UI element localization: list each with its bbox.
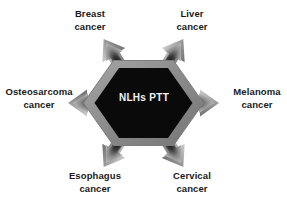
breast-label-line2: cancer <box>62 21 118 34</box>
core-label-line1: NLHs <box>119 92 146 103</box>
liver-label-line2: cancer <box>166 21 218 34</box>
esophagus-label-line2: cancer <box>64 183 126 196</box>
breast-label-line1: Breast <box>75 8 105 19</box>
core-label-line2: PTT <box>149 92 169 103</box>
cervical-label-line1: Cervical <box>173 170 211 181</box>
diagram-canvas: NLHs PTT Breast cancer Liver cancer Oste… <box>0 0 287 206</box>
node-cervical-cancer-label: Cervical cancer <box>163 170 221 195</box>
osteosarcoma-label-line1: Osteosarcoma <box>5 86 72 97</box>
node-esophagus-cancer-label: Esophagus cancer <box>64 170 126 195</box>
node-osteosarcoma-cancer-label: Osteosarcoma cancer <box>2 86 76 111</box>
node-liver-cancer-label: Liver cancer <box>166 8 218 33</box>
esophagus-label-line1: Esophagus <box>69 170 121 181</box>
cervical-label-line2: cancer <box>163 183 221 196</box>
node-breast-cancer-label: Breast cancer <box>62 8 118 33</box>
core-label: NLHs PTT <box>116 91 172 104</box>
node-melanoma-cancer-label: Melanoma cancer <box>228 86 286 111</box>
liver-label-line1: Liver <box>180 8 203 19</box>
melanoma-label-line2: cancer <box>228 99 286 112</box>
melanoma-label-line1: Melanoma <box>233 86 280 97</box>
osteosarcoma-label-line2: cancer <box>2 99 76 112</box>
